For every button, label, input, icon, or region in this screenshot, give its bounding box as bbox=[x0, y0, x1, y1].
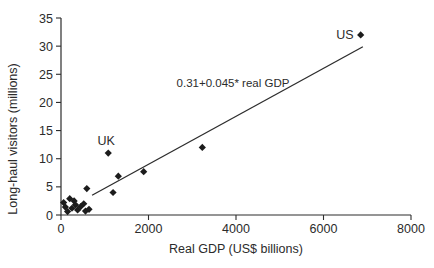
x-tick-label: 2000 bbox=[135, 222, 163, 236]
y-tick-label: 30 bbox=[39, 40, 53, 54]
data-point-marker bbox=[357, 31, 364, 38]
y-tick-label: 10 bbox=[39, 152, 53, 166]
data-point-marker bbox=[115, 173, 122, 180]
data-point-marker bbox=[199, 144, 206, 151]
scatter-plot-canvas: 0510152025303502000400060008000UKUS 0.31… bbox=[0, 0, 434, 268]
data-point-marker bbox=[83, 185, 90, 192]
y-tick-label: 25 bbox=[39, 68, 53, 82]
x-tick-label: 8000 bbox=[397, 222, 425, 236]
y-tick-label: 5 bbox=[46, 180, 53, 194]
x-tick-label: 4000 bbox=[222, 222, 250, 236]
data-point-marker bbox=[109, 189, 116, 196]
y-tick-label: 35 bbox=[39, 12, 53, 26]
data-point-marker bbox=[105, 149, 112, 156]
scatter-chart-figure: 0510152025303502000400060008000UKUS 0.31… bbox=[0, 0, 434, 268]
x-tick-label: 6000 bbox=[310, 222, 338, 236]
x-tick-label: 0 bbox=[58, 222, 65, 236]
point-label-us: US bbox=[336, 28, 353, 42]
y-tick-label: 15 bbox=[39, 124, 53, 138]
plot-layer: 0510152025303502000400060008000UKUS bbox=[39, 12, 425, 237]
y-tick-label: 20 bbox=[39, 96, 53, 110]
x-axis-title: Real GDP (US$ billions) bbox=[169, 242, 303, 256]
regression-trendline bbox=[92, 47, 363, 196]
data-point-marker bbox=[140, 168, 147, 175]
y-axis-title: Long-haul visitors (millions) bbox=[6, 63, 20, 214]
trendline-equation-label: 0.31+0.045* real GDP bbox=[177, 77, 290, 89]
point-label-uk: UK bbox=[98, 134, 116, 148]
y-tick-label: 0 bbox=[46, 209, 53, 223]
